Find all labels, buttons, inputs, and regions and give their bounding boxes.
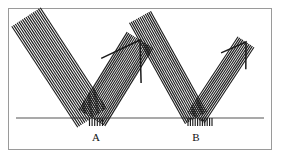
label-b: B — [186, 131, 206, 143]
label-a: A — [86, 131, 106, 143]
reflection-diagram: A B — [0, 0, 281, 160]
incident-beam-a — [12, 8, 106, 128]
beam-canvas — [0, 0, 281, 160]
